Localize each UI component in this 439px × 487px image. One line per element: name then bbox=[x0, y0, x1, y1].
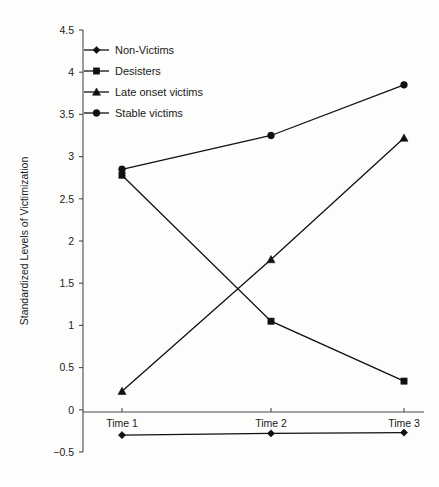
x-axis-category-label: Time 2 bbox=[255, 417, 287, 429]
y-axis-tick-label: 0 bbox=[68, 404, 74, 416]
data-point bbox=[401, 81, 408, 88]
y-axis-tick-label: 3 bbox=[68, 150, 74, 162]
y-axis-tick-label: 2.5 bbox=[59, 193, 74, 205]
y-axis-title-text: Standardized Levels of Victimization bbox=[18, 157, 30, 326]
data-point bbox=[119, 172, 125, 178]
y-axis-tick-label: −0.5 bbox=[53, 446, 74, 458]
data-point bbox=[119, 166, 126, 173]
y-axis-title: Standardized Levels of Victimization bbox=[18, 157, 30, 326]
legend-marker bbox=[93, 110, 100, 117]
y-axis-tick-label: 1.5 bbox=[59, 277, 74, 289]
legend-label: Desisters bbox=[115, 65, 161, 77]
y-axis-tick-label: 4 bbox=[68, 66, 74, 78]
chart-container: −0.500.511.522.533.544.5 Standardized Le… bbox=[0, 0, 439, 487]
data-point bbox=[268, 318, 274, 324]
legend-label: Late onset victims bbox=[115, 86, 204, 98]
victimization-line-chart: −0.500.511.522.533.544.5 Standardized Le… bbox=[0, 0, 439, 487]
chart-background bbox=[0, 0, 439, 487]
legend-marker bbox=[93, 68, 99, 74]
y-axis-tick-label: 3.5 bbox=[59, 108, 74, 120]
y-axis-tick-label: 2 bbox=[68, 235, 74, 247]
x-axis-category-label: Time 1 bbox=[106, 417, 138, 429]
data-point bbox=[401, 378, 407, 384]
legend-label: Stable victims bbox=[115, 107, 183, 119]
y-axis-tick-label: 1 bbox=[68, 319, 74, 331]
x-axis-category-label: Time 3 bbox=[388, 417, 420, 429]
y-axis-tick-label: 0.5 bbox=[59, 361, 74, 373]
legend-label: Non-Victims bbox=[115, 44, 175, 56]
data-point bbox=[268, 132, 275, 139]
y-axis-tick-label: 4.5 bbox=[59, 24, 74, 36]
